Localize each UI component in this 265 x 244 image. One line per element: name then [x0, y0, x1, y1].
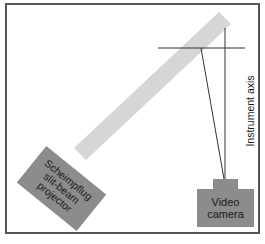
- instrument-axis-label: Instrument axis: [243, 66, 257, 156]
- camera-lens: [213, 179, 238, 189]
- camera-label-line-2: camera: [207, 208, 244, 220]
- video-camera: Video camera: [197, 189, 254, 227]
- camera-ray-line: [201, 48, 224, 179]
- camera-label-line-1: Video: [212, 196, 240, 208]
